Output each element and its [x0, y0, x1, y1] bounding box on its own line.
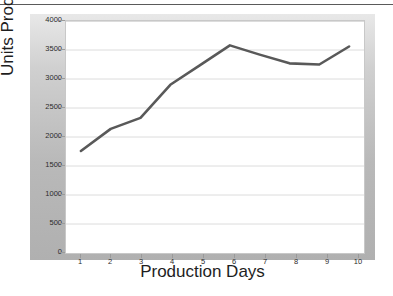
y-tick-label-1500: 1500: [22, 161, 62, 169]
y-tick-label-500: 500: [22, 219, 62, 227]
y-axis-title: Units Produced: [0, 0, 18, 76]
line-chart: 4000 3500 3000 2500 2000 1500 1000 500 0: [30, 14, 375, 260]
x-axis-title: Production Days: [30, 262, 375, 282]
y-tick-label-2500: 2500: [22, 103, 62, 111]
plot-area: [65, 20, 365, 254]
y-tick-label-4000: 4000: [22, 16, 62, 24]
y-tick-label-3500: 3500: [22, 45, 62, 53]
gridlines: [66, 21, 364, 224]
data-series-units-produced: [81, 45, 349, 151]
top-divider: [0, 4, 393, 5]
chart-page: 4000 3500 3000 2500 2000 1500 1000 500 0: [0, 0, 393, 296]
plot-svg: [66, 21, 364, 253]
y-tick-label-2000: 2000: [22, 132, 62, 140]
y-tick-label-0: 0: [22, 248, 62, 256]
y-tick-label-3000: 3000: [22, 74, 62, 82]
y-tick-label-1000: 1000: [22, 190, 62, 198]
